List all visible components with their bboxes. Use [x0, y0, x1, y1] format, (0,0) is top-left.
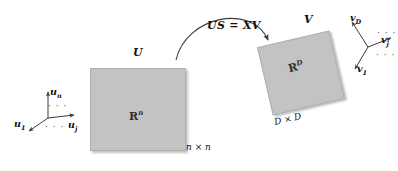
matrix-v-name-label: V: [304, 14, 313, 25]
axis-label-u-n-base: u: [50, 86, 57, 97]
right-basis-ellipsis-lower: · · ·: [376, 50, 395, 60]
axis-label-u-n-sub: n: [57, 92, 62, 100]
equation-label: US = XV: [207, 20, 261, 31]
matrix-v-square: [257, 31, 345, 116]
matrix-u-dimension-label: n × n: [186, 143, 211, 152]
left-basis-ellipsis-lower: · · ·: [45, 122, 64, 132]
left-basis-ellipsis-upper: · · ·: [48, 101, 67, 111]
axis-label-u-1-sub: 1: [21, 124, 26, 132]
matrix-u-space-base: R: [129, 110, 138, 123]
axis-u-j: [48, 115, 74, 118]
right-basis-ellipsis-upper: · · ·: [377, 28, 396, 38]
axis-label-v-D-sub: D: [356, 18, 362, 26]
matrix-u-space-label: Rn: [129, 109, 143, 122]
svd-diagram: U V Rn RD n × n D × D US = XV u1 uj un v…: [0, 0, 398, 171]
matrix-u-space-exponent: n: [138, 108, 143, 117]
axis-label-u-1: u1: [14, 118, 25, 132]
axis-label-u-1-base: u: [14, 118, 21, 129]
matrix-u-name-label: U: [133, 47, 143, 58]
axis-label-u-j-base: u: [68, 119, 75, 130]
axis-label-u-j: uj: [68, 119, 77, 133]
axis-label-v-1-sub: 1: [363, 69, 368, 77]
axis-label-v-D: vD: [350, 12, 361, 26]
axis-label-u-n: un: [50, 86, 62, 100]
axis-label-v-j-sub: j: [387, 40, 389, 48]
axis-label-u-j-sub: j: [75, 125, 77, 133]
axis-label-v-1: v1: [357, 63, 367, 77]
